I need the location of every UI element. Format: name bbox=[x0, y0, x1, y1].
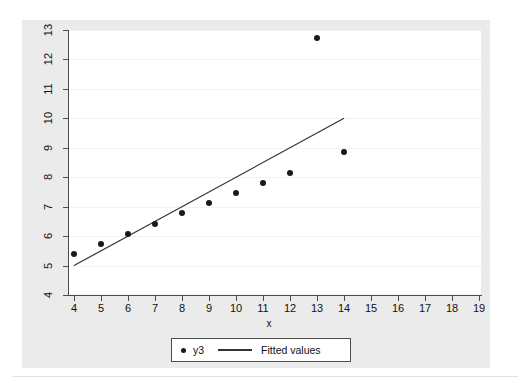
y-axis-tick-label: 10 bbox=[42, 108, 54, 128]
gridline bbox=[69, 89, 481, 90]
x-axis-tick-label: 14 bbox=[332, 302, 356, 314]
y-axis-tick-label: 4 bbox=[42, 285, 54, 305]
data-point bbox=[314, 35, 320, 41]
x-axis-tick-label: 15 bbox=[359, 302, 383, 314]
y-axis-tick bbox=[63, 89, 69, 90]
x-axis-tick-label: 12 bbox=[278, 302, 302, 314]
gridline bbox=[69, 236, 481, 237]
y-axis-tick-label: 12 bbox=[42, 49, 54, 69]
gridline bbox=[69, 30, 481, 31]
legend-entry-y3[interactable]: y3 bbox=[181, 344, 204, 356]
y-axis-line bbox=[68, 30, 69, 295]
chart-screenshot: 13 12 11 10 9 8 7 6 5 4 4 5 6 7 8 9 10 1… bbox=[0, 0, 530, 386]
x-axis-tick bbox=[209, 296, 210, 301]
x-axis-tick bbox=[317, 296, 318, 301]
x-axis-tick bbox=[479, 296, 480, 301]
gridline bbox=[69, 266, 481, 267]
x-axis-tick bbox=[236, 296, 237, 301]
x-axis-tick bbox=[101, 296, 102, 301]
y-axis-tick-label: 11 bbox=[42, 79, 54, 99]
x-axis-tick bbox=[398, 296, 399, 301]
x-axis-tick-label: 4 bbox=[62, 302, 86, 314]
x-axis-title: x bbox=[0, 318, 530, 329]
gridline bbox=[69, 177, 481, 178]
y-axis-tick bbox=[63, 207, 69, 208]
plot-region bbox=[69, 30, 481, 295]
y-axis-tick-label: 6 bbox=[42, 226, 54, 246]
y-axis-tick-label: 8 bbox=[42, 167, 54, 187]
gridline bbox=[69, 207, 481, 208]
x-axis-tick-label: 8 bbox=[170, 302, 194, 314]
y-axis-tick bbox=[63, 118, 69, 119]
y-axis-tick bbox=[63, 30, 69, 31]
x-axis-tick-label: 18 bbox=[440, 302, 464, 314]
x-axis-tick-label: 17 bbox=[413, 302, 437, 314]
y-axis-tick bbox=[63, 266, 69, 267]
x-axis-tick-label: 6 bbox=[116, 302, 140, 314]
y-axis-tick-label: 5 bbox=[42, 256, 54, 276]
legend-label-fitted-values: Fitted values bbox=[261, 344, 321, 356]
x-axis-line bbox=[68, 295, 482, 296]
y-axis-tick bbox=[63, 177, 69, 178]
x-axis-tick bbox=[425, 296, 426, 301]
y-axis-tick bbox=[63, 148, 69, 149]
y-axis-tick bbox=[63, 59, 69, 60]
y-axis-tick bbox=[63, 236, 69, 237]
legend-label-y3: y3 bbox=[193, 344, 204, 356]
x-axis-tick-label: 7 bbox=[143, 302, 167, 314]
x-axis-tick bbox=[371, 296, 372, 301]
gridline bbox=[69, 59, 481, 60]
x-axis-tick-label: 5 bbox=[89, 302, 113, 314]
data-point bbox=[287, 170, 293, 176]
data-point bbox=[98, 241, 104, 247]
dot-marker-icon bbox=[181, 348, 186, 353]
x-axis-tick bbox=[74, 296, 75, 301]
x-axis-tick-label: 9 bbox=[197, 302, 221, 314]
x-axis-tick-label: 10 bbox=[224, 302, 248, 314]
data-point bbox=[152, 221, 158, 227]
x-axis-title-text: x bbox=[267, 318, 272, 329]
y-axis-tick-label: 9 bbox=[42, 138, 54, 158]
line-marker-icon bbox=[218, 349, 252, 351]
x-axis-tick bbox=[344, 296, 345, 301]
x-axis-tick bbox=[155, 296, 156, 301]
x-axis-tick-label: 19 bbox=[467, 302, 491, 314]
x-axis-tick bbox=[452, 296, 453, 301]
x-axis-tick bbox=[182, 296, 183, 301]
chart-legend[interactable]: y3 Fitted values bbox=[171, 338, 351, 362]
bottom-divider bbox=[12, 376, 518, 377]
x-axis-tick bbox=[290, 296, 291, 301]
legend-entry-fitted-values[interactable]: Fitted values bbox=[218, 344, 321, 356]
y-axis-tick-label: 13 bbox=[42, 20, 54, 40]
data-point bbox=[260, 180, 266, 186]
x-axis-tick-label: 13 bbox=[305, 302, 329, 314]
x-axis-tick bbox=[263, 296, 264, 301]
gridline bbox=[69, 148, 481, 149]
x-axis-tick-label: 11 bbox=[251, 302, 275, 314]
y-axis-tick-label: 7 bbox=[42, 197, 54, 217]
x-axis-tick-label: 16 bbox=[386, 302, 410, 314]
data-point bbox=[125, 231, 131, 237]
x-axis-tick bbox=[128, 296, 129, 301]
gridline bbox=[69, 118, 481, 119]
